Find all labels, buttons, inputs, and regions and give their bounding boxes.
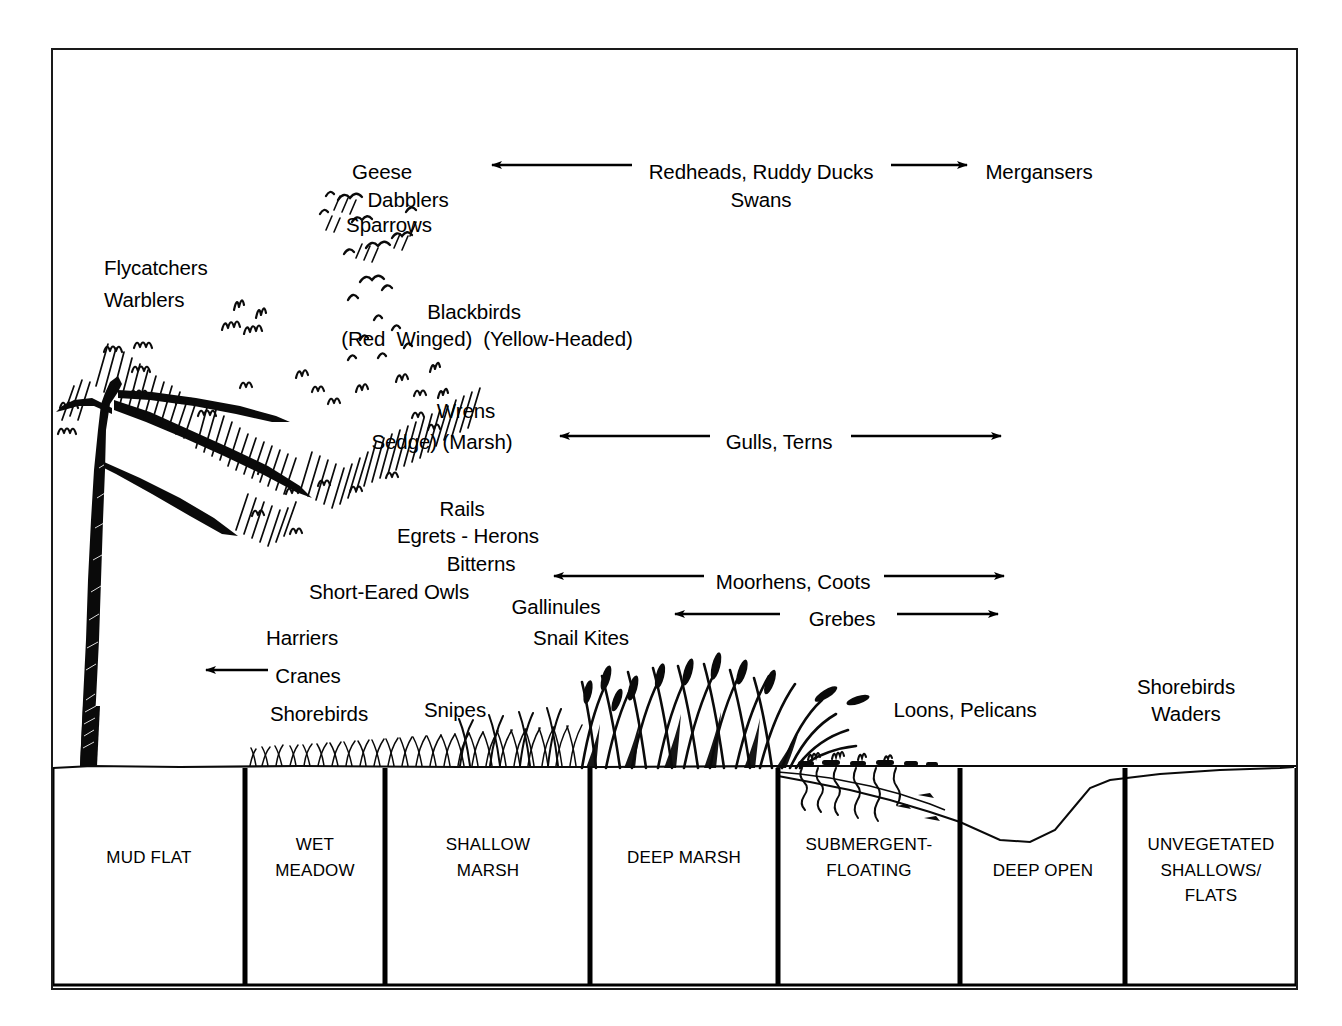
label-waders: Waders: [1151, 702, 1220, 726]
label-mergansers: Mergansers: [985, 160, 1092, 184]
label-cranes: Cranes: [275, 664, 341, 688]
label-flycatchers: Flycatchers: [104, 256, 208, 280]
label-gulls-terns: Gulls, Terns: [726, 430, 833, 454]
zone-label-shallow-marsh: SHALLOW MARSH: [446, 832, 531, 883]
label-dabblers: Dabblers: [367, 188, 448, 212]
label-warblers: Warblers: [104, 288, 184, 312]
zone-label-deep-open: DEEP OPEN: [993, 858, 1094, 884]
zone-label-wet-meadow: WET MEADOW: [275, 832, 355, 883]
label-rails: Rails: [439, 497, 484, 521]
label-sparrows: Sparrows: [346, 213, 432, 237]
label-geese: Geese: [352, 160, 412, 184]
label-wrens: Wrens: [437, 399, 495, 423]
zone-label-deep-marsh: DEEP MARSH: [627, 845, 741, 871]
label-gallinules: Gallinules: [511, 595, 600, 619]
label-shorebirds-right: Shorebirds: [1137, 675, 1235, 699]
label-bitterns: Bitterns: [447, 552, 516, 576]
zone-label-mud-flat: MUD FLAT: [106, 845, 191, 871]
label-harriers: Harriers: [266, 626, 338, 650]
label-egrets-herons: Egrets - Herons: [397, 524, 539, 548]
label-loons-pelicans: Loons, Pelicans: [893, 698, 1036, 722]
zone-label-unvegetated-shallows: UNVEGETATED SHALLOWS/ FLATS: [1147, 832, 1274, 909]
label-wren-subtypes: Sedge) (Marsh): [371, 430, 512, 454]
label-snail-kites: Snail Kites: [533, 626, 629, 650]
label-shorebirds-left: Shorebirds: [270, 702, 368, 726]
label-short-eared-owls: Short-Eared Owls: [309, 580, 469, 604]
label-moorhens-coots: Moorhens, Coots: [716, 570, 871, 594]
label-redheads-ruddy-ducks: Redheads, Ruddy Ducks: [649, 160, 874, 184]
label-swans: Swans: [730, 188, 791, 212]
label-grebes: Grebes: [809, 607, 876, 631]
label-blackbird-subtypes: (Red Winged) (Yellow-Headed): [341, 327, 632, 351]
label-blackbirds: Blackbirds: [427, 300, 521, 324]
label-snipes: Snipes: [424, 698, 486, 722]
figure-page: Flycatchers Warblers Geese Dabblers Spar…: [0, 0, 1342, 1026]
zone-label-submergent-floating: SUBMERGENT- FLOATING: [806, 832, 933, 883]
